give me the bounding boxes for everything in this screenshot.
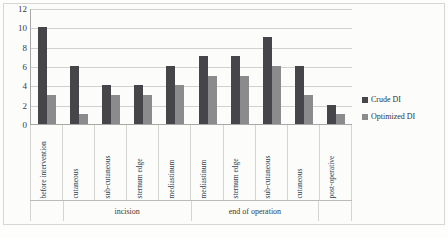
legend-label: Crude DI: [371, 96, 401, 104]
category-label: cutaneous: [296, 168, 304, 198]
category-label: before intervention: [39, 141, 47, 198]
group-label-empty: [30, 201, 64, 221]
bar-optimized: [272, 66, 281, 124]
category-tick: before intervention: [30, 125, 63, 200]
category-tick: mediastinum: [159, 125, 191, 200]
legend-swatch-icon: [362, 97, 368, 103]
legend-item[interactable]: Crude DI: [362, 96, 442, 104]
group-label-end-of-operation: end of operation: [192, 201, 320, 221]
category-label: mediastinum: [167, 159, 175, 198]
category-label: mediastinum: [200, 159, 208, 198]
legend-swatch-icon: [362, 114, 368, 120]
y-tick-label: 10: [18, 24, 27, 33]
category-tick: sternum edge: [224, 125, 256, 200]
bar-crude: [70, 66, 79, 124]
bar-optimized: [304, 95, 313, 124]
bar-optimized: [240, 76, 249, 124]
group-axis: incisionend of operation: [30, 201, 352, 221]
bar-optimized: [143, 95, 152, 124]
category-label: sternum edge: [135, 158, 143, 198]
bar-optimized: [175, 85, 184, 124]
category-tick: sub-cutaneous: [256, 125, 288, 200]
bar-crude: [327, 105, 336, 124]
bar-group: [31, 9, 63, 124]
y-tick-label: 8: [23, 43, 28, 52]
bar-group: [63, 9, 95, 124]
bar-crude: [263, 37, 272, 124]
y-tick-label: 12: [18, 5, 27, 14]
bar-crude: [134, 85, 143, 124]
category-tick: sub-cutaneous: [95, 125, 127, 200]
bar-group: [256, 9, 288, 124]
legend-label: Optimized DI: [371, 113, 415, 121]
bar-group: [320, 9, 352, 124]
category-tick: mediastinum: [191, 125, 223, 200]
y-tick-label: 0: [23, 121, 28, 130]
category-label: cutaneous: [71, 168, 79, 198]
bar-group: [191, 9, 223, 124]
bar-group: [224, 9, 256, 124]
category-label: post-operative: [328, 155, 336, 198]
group-label-incision: incision: [64, 201, 192, 221]
legend-item[interactable]: Optimized DI: [362, 113, 442, 121]
group-label-empty: [319, 201, 352, 221]
category-tick: cutaneous: [63, 125, 95, 200]
bar-crude: [231, 56, 240, 124]
category-label: sub-cutaneous: [103, 155, 111, 198]
bar-optimized: [336, 114, 345, 124]
category-tick: cutaneous: [288, 125, 320, 200]
category-label: sub-cutaneous: [264, 155, 272, 198]
bar-optimized: [208, 76, 217, 124]
bar-optimized: [47, 95, 56, 124]
bar-crude: [166, 66, 175, 124]
category-tick: sternum edge: [127, 125, 159, 200]
chart-legend: Crude DIOptimized DI: [362, 96, 442, 130]
bar-group: [159, 9, 191, 124]
category-axis: before interventioncutaneoussub-cutaneou…: [30, 125, 352, 201]
plot-area: 024681012: [30, 9, 352, 125]
bar-optimized: [79, 114, 88, 124]
bar-chart-figure: 024681012 before interventioncutaneoussu…: [0, 0, 448, 237]
category-label: sternum edge: [232, 158, 240, 198]
bar-group: [127, 9, 159, 124]
bars-layer: [31, 9, 352, 124]
bar-group: [95, 9, 127, 124]
y-tick-label: 4: [23, 82, 28, 91]
y-tick-label: 2: [23, 101, 28, 110]
bar-crude: [199, 56, 208, 124]
category-tick: post-operative: [320, 125, 352, 200]
y-tick-label: 6: [23, 63, 28, 72]
bar-crude: [38, 27, 47, 124]
bar-crude: [295, 66, 304, 124]
bar-optimized: [111, 95, 120, 124]
bar-group: [288, 9, 320, 124]
bar-crude: [102, 85, 111, 124]
